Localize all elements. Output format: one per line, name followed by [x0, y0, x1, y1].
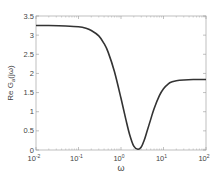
line-chart: 10-210-110010110200.511.522.533.5 ω Re G…	[0, 0, 222, 177]
axes-box	[36, 16, 206, 150]
y-tick-label: 0.5	[24, 126, 34, 135]
data-series	[36, 26, 206, 150]
y-tick-label: 3.5	[24, 12, 34, 21]
x-tick-label: 10-1	[70, 153, 83, 164]
x-tick-label: 100	[113, 153, 124, 164]
y-tick-label: 2.5	[24, 50, 34, 59]
x-tick-label: 101	[156, 153, 167, 164]
y-tick-label: 1.5	[24, 88, 34, 97]
y-label-prefix: Re G	[6, 82, 15, 101]
series-line	[36, 26, 206, 150]
plot-frame	[36, 16, 206, 150]
y-tick-label: 0	[30, 146, 34, 155]
y-tick-label: 1	[30, 107, 34, 116]
y-tick-label: 2	[30, 69, 34, 78]
y-tick-label: 3	[30, 31, 34, 40]
x-axis-label: ω	[117, 163, 124, 173]
chart-container: 10-210-110010110200.511.522.533.5 ω Re G…	[0, 0, 222, 177]
y-axis-label: Re Ga(jω)	[6, 65, 16, 101]
y-label-suffix: (jω)	[6, 65, 15, 79]
axis-ticks: 10-210-110010110200.511.522.533.5	[24, 12, 210, 164]
x-tick-label: 102	[198, 153, 209, 164]
